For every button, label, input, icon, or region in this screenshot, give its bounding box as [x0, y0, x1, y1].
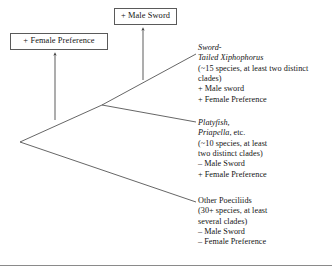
taxon-name-line: Tailed Xiphophorus — [198, 53, 332, 63]
taxon-detail-line: (30+ species, at least — [198, 206, 332, 216]
taxon-scientific-name: Priapella — [198, 128, 229, 137]
taxon-detail-line: + Female Preference — [198, 95, 332, 105]
branch-root-upper — [20, 105, 102, 142]
taxon-detail-line: clades) — [198, 74, 332, 84]
event-box-female-preference-label: + Female Preference — [23, 37, 94, 45]
branch-xiphophorus — [102, 54, 196, 105]
footer-rule — [0, 265, 332, 266]
branch-platyfish — [102, 105, 196, 122]
taxon-name-line: Other Poeciliids — [198, 196, 332, 206]
taxon-scientific-name: Platyfish, — [198, 118, 230, 127]
taxon-scientific-name: Other Poeciliids — [198, 196, 252, 205]
phylogeny-figure: + Male Sword + Female Preference Sword-T… — [0, 0, 332, 274]
taxon-detail-line: – Male Sword — [198, 227, 332, 237]
taxon-detail-line: + Female Preference — [198, 170, 332, 180]
taxon-detail-line: – Female Preference — [198, 237, 332, 247]
taxon-name-line: Priapella, etc. — [198, 128, 332, 138]
taxon-name-line: Platyfish, — [198, 118, 332, 128]
event-box-male-sword-label: + Male Sword — [121, 12, 170, 20]
event-box-male-sword: + Male Sword — [114, 8, 177, 25]
taxon-label-sword-tailed-xiphophorus: Sword-Tailed Xiphophorus(~15 species, at… — [198, 43, 332, 105]
taxon-detail-line: several clades) — [198, 217, 332, 227]
branch-root-lower — [20, 142, 196, 202]
taxon-detail-line: (~10 species, at least — [198, 139, 332, 149]
taxon-name-suffix: , etc. — [229, 128, 245, 137]
taxon-scientific-name: Tailed Xiphophorus — [198, 53, 263, 62]
event-box-female-preference: + Female Preference — [10, 33, 108, 50]
taxon-detail-line: two distinct clades) — [198, 149, 332, 159]
taxon-label-other-poeciliids: Other Poeciliids(30+ species, at leastse… — [198, 196, 332, 248]
taxon-detail-line: + Male sword — [198, 84, 332, 94]
taxon-detail-line: (~15 species, at least two distinct — [198, 64, 332, 74]
taxon-detail-line: – Male Sword — [198, 159, 332, 169]
taxon-scientific-name: Sword- — [198, 43, 222, 52]
taxon-name-line: Sword- — [198, 43, 332, 53]
taxon-label-platyfish-priapella: Platyfish,Priapella, etc.(~10 species, a… — [198, 118, 332, 180]
